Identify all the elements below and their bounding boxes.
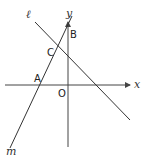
origin-label: O bbox=[58, 88, 66, 99]
point-c-label: C bbox=[47, 47, 54, 58]
y-axis-label: y bbox=[65, 7, 73, 20]
line-l-label: ℓ bbox=[26, 8, 31, 21]
point-a-label: A bbox=[34, 73, 41, 84]
line-l bbox=[35, 22, 130, 120]
coordinate-diagram: x y ℓ m A O C B bbox=[0, 0, 147, 157]
point-b-label: B bbox=[70, 29, 77, 40]
x-axis-label: x bbox=[134, 78, 141, 91]
line-m-label: m bbox=[6, 145, 16, 157]
line-m bbox=[10, 16, 72, 148]
